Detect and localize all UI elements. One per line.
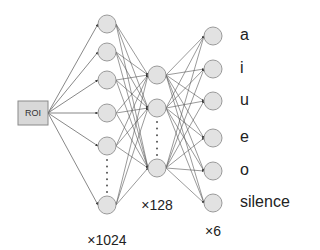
neuron-node xyxy=(98,137,116,155)
output-count-label: ×6 xyxy=(205,224,221,238)
neuron-node xyxy=(204,92,222,110)
neuron-node xyxy=(98,104,116,122)
neuron-node xyxy=(98,43,116,61)
neuron-node xyxy=(98,15,116,33)
neuron-node xyxy=(98,71,116,89)
input-roi-label: ROI xyxy=(25,109,41,118)
output-label-u: u xyxy=(240,92,249,108)
neuron-node xyxy=(148,66,166,84)
output-label-silence: silence xyxy=(240,194,290,210)
output-label-e: e xyxy=(240,129,249,145)
layer1-count-label: ×1024 xyxy=(87,233,126,247)
neuron-node xyxy=(148,159,166,177)
connection-edges xyxy=(48,24,204,205)
neuron-node xyxy=(204,60,222,78)
output-label-o: o xyxy=(240,162,249,178)
output-label-a: a xyxy=(240,27,249,43)
neuron-node xyxy=(204,129,222,147)
neuron-node xyxy=(148,99,166,117)
neuron-node xyxy=(204,162,222,180)
neuron-node xyxy=(204,194,222,212)
neuron-node xyxy=(204,27,222,45)
layer2-count-label: ×128 xyxy=(141,198,173,212)
neuron-node xyxy=(98,196,116,214)
output-label-i: i xyxy=(240,60,244,76)
